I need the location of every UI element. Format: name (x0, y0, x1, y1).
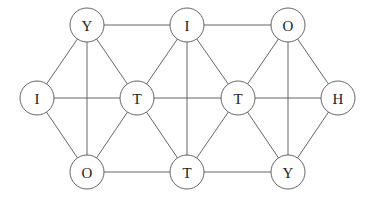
node-label: Y (82, 18, 93, 34)
node-label: O (283, 18, 294, 34)
node-label: T (233, 91, 242, 107)
node-label: H (333, 91, 344, 107)
graph-node: T (120, 81, 154, 115)
graph-node: I (170, 8, 204, 42)
graph-node: O (271, 8, 305, 42)
edges-layer (37, 25, 338, 172)
node-label: I (185, 18, 190, 34)
node-label: T (182, 165, 191, 181)
graph-node: T (221, 81, 255, 115)
graph-node: Y (70, 8, 104, 42)
node-label: O (82, 165, 93, 181)
graph-node: H (321, 81, 355, 115)
node-label: I (35, 91, 40, 107)
graph-node: O (70, 155, 104, 189)
node-label: T (132, 91, 141, 107)
graph-node: T (170, 155, 204, 189)
graph-node: I (20, 81, 54, 115)
node-label: Y (283, 165, 294, 181)
graph-node: Y (271, 155, 305, 189)
graph-diagram: YIOITTHOTY (0, 0, 375, 202)
nodes-layer: YIOITTHOTY (20, 8, 355, 189)
